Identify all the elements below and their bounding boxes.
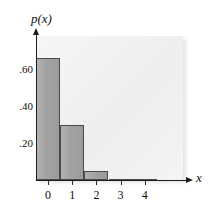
x-axis-tick	[72, 181, 73, 185]
y-axis-tick-label: .60	[7, 63, 33, 75]
y-axis-tick-label: .20	[7, 137, 33, 149]
x-axis-arrow-icon	[186, 177, 193, 183]
x-axis-title: x	[196, 170, 202, 186]
y-axis-line	[36, 33, 37, 181]
y-axis-arrow-icon	[33, 28, 39, 35]
x-axis-tick	[48, 181, 49, 185]
x-axis-tick-label: 4	[135, 188, 155, 202]
bar	[60, 125, 84, 181]
bar	[84, 171, 108, 180]
y-axis-tick-label: .40	[7, 100, 33, 112]
x-axis-tick	[121, 181, 122, 185]
x-axis-tick-label: 2	[86, 188, 106, 202]
bar	[36, 58, 60, 180]
x-axis-tick-label: 1	[62, 188, 82, 202]
probability-histogram-figure: 01234 .60.40.20 p(x) x	[0, 0, 210, 219]
y-axis-tick-labels: .60.40.20	[6, 0, 33, 219]
y-axis-title: p(x)	[31, 11, 52, 27]
x-axis-tick-label: 3	[111, 188, 131, 202]
x-axis-tick	[96, 181, 97, 185]
x-axis-line	[36, 180, 188, 181]
x-axis-tick	[145, 181, 146, 185]
x-axis-tick-label: 0	[38, 188, 58, 202]
